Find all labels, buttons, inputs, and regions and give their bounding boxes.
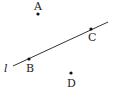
geometry-diagram: l A B C D — [0, 0, 119, 92]
point-d-label: D — [67, 77, 76, 90]
diagram-svg: l A B C D — [0, 0, 119, 92]
point-b-dot — [27, 57, 30, 60]
point-c-label: C — [88, 31, 96, 44]
point-a-label: A — [33, 0, 43, 13]
point-d-dot — [69, 71, 72, 74]
line-l — [13, 22, 108, 66]
point-b-label: B — [26, 62, 34, 75]
line-l-label: l — [4, 62, 8, 75]
